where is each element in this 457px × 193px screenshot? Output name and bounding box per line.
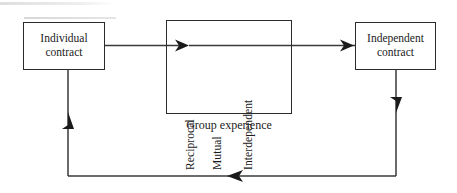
arrow-head-up <box>62 112 74 129</box>
connector-group-to-independent <box>292 40 355 52</box>
diagram-canvas: Individual contract Reciprocal Mutual In… <box>0 0 457 193</box>
node-individual-contract-label: Individual contract <box>40 32 87 59</box>
node-independent-contract-label: Independent contract <box>367 32 424 59</box>
arrow-head-down <box>390 97 402 113</box>
group-word-mutual: Mutual <box>211 136 223 170</box>
group-word-reciprocal: Reciprocal <box>184 119 196 170</box>
node-group-experience-box[interactable] <box>166 20 292 114</box>
node-independent-contract[interactable]: Independent contract <box>355 22 436 70</box>
connector-feedback-up <box>62 70 74 176</box>
group-word-interdependent: Interdependent <box>242 100 254 170</box>
node-individual-contract[interactable]: Individual contract <box>23 22 105 70</box>
connector-independent-down <box>390 70 402 176</box>
connector-feedback-line <box>68 170 396 182</box>
